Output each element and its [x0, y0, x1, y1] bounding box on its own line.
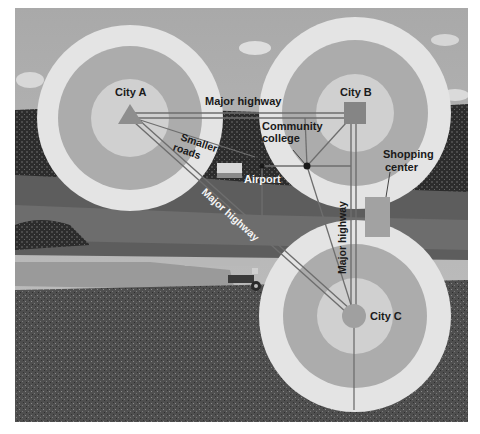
airport-label: Airport [244, 173, 281, 185]
map-diagram: City A City B City C Major highway Small… [0, 0, 480, 434]
major-highway-vertical-label: Major highway [336, 201, 348, 274]
city-c-circle-icon [342, 304, 366, 328]
cloud [239, 41, 271, 55]
city-c-label: City C [370, 310, 402, 322]
community-college-label-line1: Community [262, 120, 323, 132]
city-b-square-icon [344, 102, 366, 124]
farmhouse [217, 163, 242, 173]
farmhouse-base [217, 173, 242, 178]
community-college-label-line2: college [262, 132, 300, 144]
community-college-dot-icon [304, 163, 311, 170]
diagram: City A City B City C Major highway Small… [0, 0, 480, 434]
cloud [431, 34, 459, 46]
city-b-label: City B [340, 86, 372, 98]
cloud [16, 72, 44, 88]
major-highway-top-label: Major highway [205, 95, 282, 107]
shopping-center-label-line2: center [385, 161, 419, 173]
shopping-center-label-line1: Shopping [383, 148, 434, 160]
airport-dot-icon [260, 164, 265, 169]
city-a-label: City A [115, 86, 146, 98]
shopping-center-block-icon [365, 197, 390, 237]
light-field-strip [180, 258, 260, 266]
